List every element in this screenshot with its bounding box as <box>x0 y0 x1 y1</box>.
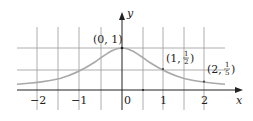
annotation-1-half: (1, 1 2 ) <box>166 50 194 66</box>
svg-text:(1,: (1, <box>166 52 181 65</box>
svg-text:(2,: (2, <box>207 63 222 76</box>
annotation-0-1: (0, 1) <box>93 33 123 46</box>
x-axis-label: x <box>236 94 243 107</box>
tick-label-1: 1 <box>160 94 167 107</box>
function-graph: y x −2 −1 0 1 2 (0, 1) (1, 1 2 ) (2, 1 5… <box>0 0 253 121</box>
tick-label-2: 2 <box>201 94 208 107</box>
tick-label-0: 0 <box>124 94 131 107</box>
svg-text:): ) <box>190 52 194 65</box>
x-axis-arrow-icon <box>235 87 243 93</box>
y-axis-arrow-icon <box>119 12 125 20</box>
svg-text:5: 5 <box>225 69 229 77</box>
tick-label-neg2: −2 <box>30 94 46 107</box>
svg-text:1: 1 <box>225 61 229 69</box>
y-axis-label: y <box>126 7 134 20</box>
annotation-2-fifth: (2, 1 5 ) <box>207 61 235 77</box>
svg-text:2: 2 <box>184 58 188 66</box>
point-2-fifth <box>203 81 205 83</box>
point-1-half <box>162 68 164 70</box>
svg-text:): ) <box>231 63 235 76</box>
tick-dot-half <box>142 89 144 91</box>
tick-label-neg1: −1 <box>71 94 87 107</box>
point-0-1 <box>121 47 124 50</box>
svg-text:1: 1 <box>184 50 188 58</box>
